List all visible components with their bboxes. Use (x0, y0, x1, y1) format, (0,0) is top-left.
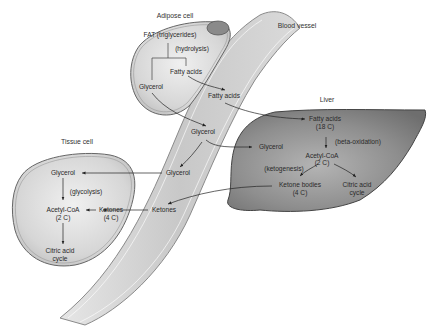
liver-fatty-acids-label: Fatty acids (309, 115, 341, 123)
blood-vessel-label: Blood vessel (278, 22, 317, 30)
adipose-glycerol-label: Glycerol (139, 83, 163, 91)
tissue-acetyl-coa-carbons: (2 C) (56, 214, 71, 222)
tissue-citric-acid-label: Citric acid (46, 247, 75, 255)
liver-glycerol-label: Glycerol (259, 143, 283, 151)
liver-citric-cycle-label: cycle (349, 189, 364, 197)
ketogenesis-label: (ketogenesis) (264, 165, 304, 173)
hydrolysis-label: (hydrolysis) (175, 45, 209, 53)
tissue-cell-label: Tissue cell (61, 138, 93, 146)
adipose-cell-label: Adipose cell (157, 12, 194, 20)
ketone-bodies-label: Ketone bodies (279, 181, 321, 189)
tissue-citric-cycle-label: cycle (52, 255, 67, 263)
glycolysis-label: (glycolysis) (70, 188, 103, 196)
liver-label: Liver (320, 96, 335, 104)
tissue-ketones-carbons: (4 C) (104, 214, 119, 222)
beta-oxidation-label: (beta-oxidation) (335, 138, 381, 146)
blood-glycerol-upper-label: Glycerol (191, 128, 215, 136)
liver-acetyl-coa-carbons: (2 C) (315, 159, 330, 167)
fat-triglycerides-label: FAT (triglycerides) (144, 31, 197, 39)
blood-glycerol-lower-label: Glycerol (166, 169, 190, 177)
diagram-graphics (0, 0, 435, 333)
adipose-nucleus (207, 21, 229, 35)
fat-metabolism-diagram: Adipose cell Blood vessel Liver Tissue c… (0, 0, 435, 333)
adipose-fatty-acids-label: Fatty acids (170, 68, 202, 76)
tissue-ketones-label: Ketones (99, 206, 123, 214)
tissue-acetyl-coa-label: Acetyl-CoA (47, 206, 80, 214)
blood-ketones-label: Ketones (152, 206, 176, 214)
liver-fatty-acids-carbons: (18 C) (316, 123, 334, 131)
blood-fatty-acids-label: Fatty acids (208, 92, 240, 100)
tissue-glycerol-label: Glycerol (51, 169, 75, 177)
liver-citric-acid-label: Citric acid (343, 181, 372, 189)
ketone-bodies-carbons: (4 C) (293, 189, 308, 197)
